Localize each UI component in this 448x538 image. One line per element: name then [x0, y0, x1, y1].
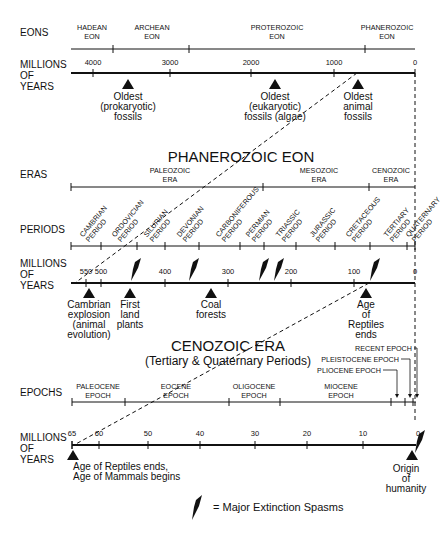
eon-event: Oldest(eukaryotic)fossils (algae) [244, 79, 306, 122]
axis-label: 2000 [243, 58, 260, 67]
row-label-my3-a: MILLIONS [20, 432, 67, 443]
extinction-spasm-icon [189, 258, 199, 281]
era-label: PALEOZOICERA [150, 166, 191, 184]
eon-label-line: PHANEROZOIC [361, 23, 414, 32]
event-label-line: plants [117, 319, 144, 330]
era-label-line: ERA [163, 175, 178, 184]
period-label: SILURIANPERIOD [142, 208, 176, 244]
era-label-line: PALEOZOIC [150, 166, 191, 175]
eon-label-line: HADEAN [77, 23, 107, 32]
axis-label: 10 [359, 429, 367, 438]
row-label-eons: EONS [20, 27, 49, 38]
event-label-line: ends [355, 329, 377, 340]
epoch-label: PALEOCENEEPOCH [76, 382, 120, 400]
event-marker-icon [360, 288, 372, 298]
axis-label: 200 [285, 267, 298, 276]
axis-label: 40 [196, 429, 204, 438]
event-marker-icon [67, 450, 79, 460]
event-label-line: forests [196, 309, 226, 320]
period-label: DEVONIANPERIOD [175, 204, 212, 244]
event-marker-icon [124, 288, 136, 298]
row-label-my1-c: YEARS [20, 81, 54, 92]
row-label-my3-c: YEARS [20, 454, 54, 465]
period-ticks [71, 242, 415, 287]
event-label-line: Age of Mammals begins [73, 471, 180, 482]
eon-events: Oldest(prokaryotic)fossilsOldest(eukaryo… [100, 79, 373, 122]
period-label: JURASSICPERIOD [308, 206, 344, 244]
epoch-ticks [72, 398, 413, 449]
era-labels: PALEOZOICERAMESOZOICERACENOZOICERA [150, 166, 410, 184]
epoch-event: Originofhumanity [386, 450, 427, 494]
extinction-spasm-icon [131, 258, 141, 281]
axis-label: 20 [303, 429, 311, 438]
period-event: AgeofReptilesends [348, 288, 384, 340]
row-label-periods: PERIODS [20, 224, 65, 235]
event-label-line: humanity [386, 483, 427, 494]
period-event: Firstlandplants [117, 288, 144, 330]
legend-label: = Major Extinction Spasms [213, 501, 344, 513]
extinction-spasm-icon [192, 495, 202, 520]
event-marker-icon [406, 450, 418, 460]
axis-label: 400 [159, 267, 172, 276]
eon-label-line: EON [379, 32, 395, 41]
callout-leader [401, 359, 410, 396]
eon-labels: HADEANEONARCHEANEONPROTEROZOICEONPHANERO… [77, 23, 413, 41]
period-label: PERMIANPERIOD [244, 208, 278, 244]
epoch-label-line: MIOCENE [324, 382, 358, 391]
axis-label: 65 [68, 429, 76, 438]
eon-label: HADEANEON [77, 23, 107, 41]
epoch-label-line: EPOCH [328, 391, 354, 400]
period-label: TRIASSICPERIOD [274, 208, 308, 244]
eon-label: PROTEROZOICEON [251, 23, 304, 41]
epoch-label: OLIGOCENEEPOCH [233, 382, 276, 400]
epoch-event: Age of Reptiles ends,Age of Mammals begi… [67, 450, 180, 482]
event-label-line: fossils (algae) [244, 111, 306, 122]
era-label-line: CENOZOIC [372, 166, 410, 175]
geologic-timescale-diagram: EONS MILLIONS OF YEARS ERAS PERIODS MILL… [0, 0, 448, 538]
cenozoic-title: CENOZOIC ERA [171, 337, 285, 354]
epoch-label-line: PALEOCENE [76, 382, 120, 391]
eon-event: Oldestanimalfossils [343, 79, 372, 122]
epoch-callout-label: PLEISTOCENE EPOCH [321, 355, 399, 364]
epoch-labels: PALEOCENEEPOCHEOCENEEPOCHOLIGOCENEEPOCHM… [76, 382, 358, 400]
callout-leader [383, 370, 397, 396]
epoch-label-line: EPOCH [85, 391, 111, 400]
axis-label: 0 [413, 267, 417, 276]
eon-event: Oldest(prokaryotic)fossils [100, 79, 156, 122]
era-label: MESOZOICERA [300, 166, 338, 184]
event-marker-icon [122, 79, 134, 89]
period-label: QUATERNARYPERIOD [404, 195, 448, 244]
legend: = Major Extinction Spasms [192, 495, 344, 520]
cenozoic-subtitle: (Tertiary & Quaternary Periods) [145, 354, 311, 368]
extinction-spasm-icon [370, 258, 380, 281]
row-label-my1-a: MILLIONS [20, 59, 67, 70]
row-label-epochs: EPOCHS [20, 387, 63, 398]
era-label-line: ERA [384, 175, 399, 184]
axis-label: 1000 [326, 58, 343, 67]
event-label-line: fossils [344, 111, 372, 122]
axis-label: 30 [251, 429, 259, 438]
row-label-my3-b: OF [20, 443, 34, 454]
axis-label: 50 [144, 429, 152, 438]
epoch-label-line: EPOCH [241, 391, 267, 400]
row-label-my2-a: MILLIONS [20, 258, 67, 269]
phanerozoic-title: PHANEROZOIC EON [168, 148, 315, 165]
event-label-line: fossils [114, 111, 142, 122]
period-label: CAMBRIANPERIOD [78, 204, 115, 244]
era-label-line: ERA [312, 175, 327, 184]
period-axis-labels: 5505004003002001000 [80, 267, 417, 276]
arrow-down-icon [408, 394, 412, 398]
period-labels: CAMBRIANPERIODORDOVICIANPERIODSILURIANPE… [78, 185, 448, 244]
extinction-spasm-icon [259, 258, 269, 281]
axis-label: 4000 [85, 58, 102, 67]
axis-label: 0 [413, 58, 417, 67]
epoch-label: EOCENEEPOCH [161, 382, 192, 400]
period-event: Cambrianexplosion(animalevolution) [67, 288, 110, 340]
axis-label: 3000 [162, 58, 179, 67]
event-marker-icon [83, 288, 95, 298]
axis-label: 550 [80, 267, 93, 276]
period-event: Coalforests [196, 288, 226, 320]
row-labels: EONS MILLIONS OF YEARS ERAS PERIODS MILL… [20, 27, 67, 465]
era-label-line: MESOZOIC [300, 166, 338, 175]
eon-label: PHANEROZOICEON [361, 23, 414, 41]
